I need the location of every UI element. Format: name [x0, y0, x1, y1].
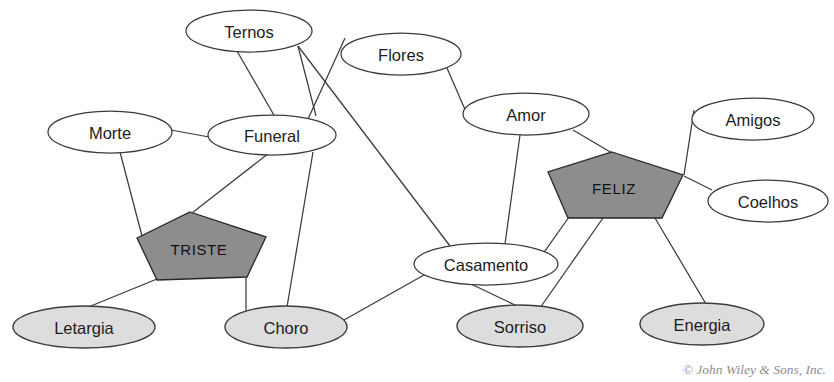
- edge-amor-feliz: [573, 130, 612, 153]
- node-amor[interactable]: Amor: [463, 93, 589, 135]
- node-energia[interactable]: Energia: [640, 303, 764, 345]
- edge-morte-triste: [120, 152, 142, 236]
- node-letargia[interactable]: Letargia: [13, 306, 155, 348]
- node-label-coelhos: Coelhos: [738, 193, 799, 211]
- edge-coelhos-feliz: [684, 176, 712, 190]
- nodes-layer: TernosFloresMorteFuneralAmorAmigosCoelho…: [13, 10, 828, 348]
- edge-casamento-sorriso: [471, 284, 517, 306]
- node-sorriso[interactable]: Sorriso: [457, 305, 583, 347]
- node-choro[interactable]: Choro: [225, 306, 347, 348]
- node-label-amigos: Amigos: [725, 111, 780, 129]
- edge-amor-casamento: [505, 135, 520, 244]
- node-label-choro: Choro: [264, 319, 309, 337]
- edge-choro-casamento: [344, 275, 424, 320]
- edge-triste-letargia: [86, 279, 157, 308]
- node-label-letargia: Letargia: [54, 319, 114, 337]
- node-casamento[interactable]: Casamento: [414, 243, 558, 285]
- node-amigos[interactable]: Amigos: [692, 98, 814, 140]
- node-label-triste: TRISTE: [171, 241, 228, 258]
- node-funeral[interactable]: Funeral: [208, 115, 336, 155]
- node-label-sorriso: Sorriso: [494, 318, 546, 336]
- node-morte[interactable]: Morte: [48, 111, 172, 153]
- node-feliz[interactable]: FELIZ: [548, 152, 683, 218]
- edge-feliz-energia: [655, 218, 706, 304]
- node-flores[interactable]: Flores: [341, 33, 461, 75]
- node-ternos[interactable]: Ternos: [186, 10, 312, 52]
- node-label-funeral: Funeral: [244, 127, 300, 145]
- node-label-amor: Amor: [506, 106, 546, 124]
- node-label-flores: Flores: [378, 46, 424, 64]
- edge-ternos-funeral: [237, 51, 275, 117]
- edge-funeral-triste: [192, 153, 269, 213]
- edge-morte-funeral: [171, 130, 209, 137]
- diagram-canvas: TernosFloresMorteFuneralAmorAmigosCoelho…: [0, 0, 834, 382]
- edge-ternos-funeral: [298, 46, 316, 116]
- node-label-feliz: FELIZ: [592, 180, 636, 197]
- copyright-credit: © John Wiley & Sons, Inc.: [683, 362, 826, 378]
- node-label-energia: Energia: [674, 316, 732, 334]
- edge-funeral-choro: [287, 152, 313, 307]
- node-coelhos[interactable]: Coelhos: [708, 180, 828, 222]
- semantic-network-graph: TernosFloresMorteFuneralAmorAmigosCoelho…: [0, 0, 834, 382]
- node-label-morte: Morte: [89, 124, 131, 142]
- node-label-casamento: Casamento: [444, 256, 528, 274]
- node-label-ternos: Ternos: [224, 23, 274, 41]
- node-triste[interactable]: TRISTE: [137, 212, 266, 280]
